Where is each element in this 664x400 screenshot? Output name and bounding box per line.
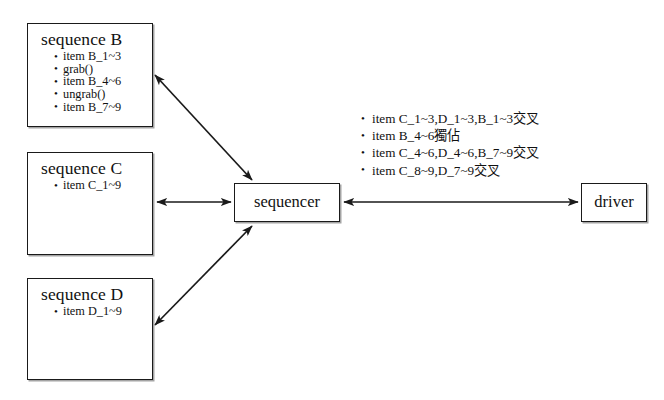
annotation-item: item B_4~6獨佔 xyxy=(361,127,611,144)
list-item: item B_7~9 xyxy=(54,101,152,114)
node-sequence-c-item-list: item C_1~9 xyxy=(28,179,152,192)
node-sequence-b[interactable]: sequence B item B_1~3 grab() item B_4~6 … xyxy=(27,23,153,127)
node-sequence-c-title: sequence C xyxy=(28,158,152,178)
list-item: item D_1~9 xyxy=(54,305,152,318)
annotation-item: item C_8~9,D_7~9交叉 xyxy=(361,162,611,179)
node-sequencer[interactable]: sequencer xyxy=(234,183,340,222)
annotation-item: item C_1~3,D_1~3,B_1~3交叉 xyxy=(361,110,611,127)
node-sequencer-label: sequencer xyxy=(254,194,320,211)
list-item: item B_1~3 xyxy=(54,50,152,63)
node-sequence-c[interactable]: sequence C item C_1~9 xyxy=(27,152,153,255)
node-sequence-b-item-list: item B_1~3 grab() item B_4~6 ungrab() it… xyxy=(28,50,152,113)
node-sequence-b-title: sequence B xyxy=(28,29,152,49)
list-item: ungrab() xyxy=(54,88,152,101)
diagram-canvas: sequence B item B_1~3 grab() item B_4~6 … xyxy=(0,0,664,400)
node-driver-label: driver xyxy=(594,194,633,211)
annotation-list: item C_1~3,D_1~3,B_1~3交叉 item B_4~6獨佔 it… xyxy=(361,110,611,179)
list-item: item C_1~9 xyxy=(54,179,152,192)
connector-sequence-d-sequencer xyxy=(155,226,252,325)
node-sequence-d-title: sequence D xyxy=(28,284,152,304)
annotation-item: item C_4~6,D_4~6,B_7~9交叉 xyxy=(361,144,611,161)
node-sequence-d[interactable]: sequence D item D_1~9 xyxy=(27,278,153,380)
node-sequence-d-item-list: item D_1~9 xyxy=(28,305,152,318)
node-driver[interactable]: driver xyxy=(581,183,647,222)
connector-sequence-b-sequencer xyxy=(155,75,252,180)
